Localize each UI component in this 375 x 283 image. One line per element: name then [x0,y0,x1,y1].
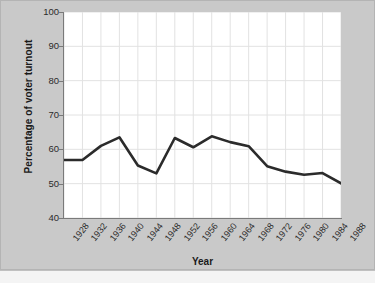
plot-area [64,12,341,218]
y-tick-label-text: 100 [33,7,59,17]
x-tick-label-text: 1984 [329,221,349,243]
y-tick-mark [59,81,63,82]
y-tick-mark [59,184,63,185]
y-axis-title: Percentage of voter turnout [23,17,34,197]
y-tick-label: 40 [33,213,59,223]
y-tick-label-text: 70 [33,110,59,120]
y-tick-label-text: 80 [33,76,59,86]
x-tick-label-text: 1936 [108,221,128,243]
y-tick-mark [59,149,63,150]
x-tick-label-text: 1964 [237,221,257,243]
y-tick-label-text: 90 [33,41,59,51]
x-tick-label-text: 1972 [274,221,294,243]
y-tick-label: 60 [33,144,59,154]
bottom-strip [0,270,375,283]
x-tick-label-text: 1968 [255,221,275,243]
y-tick-label-text: 40 [33,213,59,223]
y-tick-label: 50 [33,179,59,189]
x-tick-label-text: 1956 [200,221,220,243]
chart-figure: 100908070605040 192819321936194019441948… [0,0,375,270]
y-tick-mark [59,12,63,13]
x-tick-label-text: 1976 [292,221,312,243]
x-tick-label-text: 1960 [218,221,238,243]
y-tick-mark [59,218,63,219]
y-axis-line [63,12,64,219]
y-tick-label: 80 [33,76,59,86]
y-tick-label: 70 [33,110,59,120]
x-tick-label-text: 1932 [89,221,109,243]
x-tick-label-text: 1988 [348,221,368,243]
x-tick-label-text: 1980 [311,221,331,243]
x-tick-label-text: 1928 [71,221,91,243]
y-tick-label: 90 [33,41,59,51]
y-tick-label-text: 50 [33,179,59,189]
y-tick-mark [59,46,63,47]
y-tick-label-text: 60 [33,144,59,154]
x-tick-label-text: 1952 [181,221,201,243]
turnout-line-series [64,136,341,183]
plot-svg [64,12,341,218]
y-tick-label: 100 [33,7,59,17]
x-axis-title: Year [64,256,341,267]
x-tick-label-text: 1944 [145,221,165,243]
x-tick-label-text: 1948 [163,221,183,243]
y-tick-mark [59,115,63,116]
x-tick-label-text: 1940 [126,221,146,243]
x-axis-line [63,218,342,219]
horizontal-gridlines [64,12,341,218]
